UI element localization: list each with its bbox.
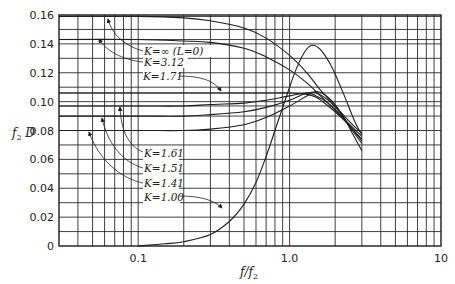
leader-k-100 [180, 196, 222, 208]
y-tick-label: 0 [47, 240, 54, 253]
y-tick-label: 0.10 [30, 96, 55, 109]
y-tick-label: 0.02 [30, 211, 55, 224]
x-axis-title: f/f2 [239, 265, 258, 281]
leader-k-171 [178, 76, 221, 91]
y-tick-label: 0.12 [30, 67, 55, 80]
x-tick-label: 10 [434, 252, 448, 265]
y-tick-label: 0.16 [30, 9, 55, 22]
label-k-151: K=1.51 [143, 162, 184, 174]
annotation-labels: K=∞ (L=0) K=3.12 K=1.71 K=1.61 K=1.51 K=… [142, 45, 218, 204]
leader-k-141 [89, 132, 143, 183]
label-k-312: K=3.12 [143, 56, 184, 68]
x-axis-ticks: 0.11.010 [129, 252, 448, 265]
label-k-100: K=1.00 [143, 191, 184, 203]
label-k-141: K=1.41 [143, 177, 184, 189]
x-tick-label: 0.1 [129, 252, 147, 265]
x-tick-label: 1.0 [281, 252, 299, 265]
y-tick-label: 0.14 [30, 38, 55, 51]
y-tick-label: 0.04 [30, 182, 55, 195]
chart: 00.020.040.060.080.100.120.140.16 0.11.0… [0, 0, 455, 284]
label-k-171: K=1.71 [142, 70, 183, 82]
y-tick-label: 0.06 [30, 153, 55, 166]
y-axis-title: f2 D [11, 126, 35, 142]
label-k-161: K=1.61 [143, 147, 184, 159]
